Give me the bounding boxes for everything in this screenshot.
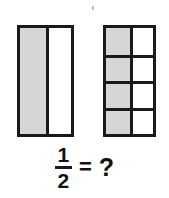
answer-placeholder: ? bbox=[99, 155, 114, 180]
fraction-cell-eighth-3 bbox=[106, 55, 130, 82]
fraction-cell-eighth-2 bbox=[130, 28, 154, 55]
fraction-numerator: 1 bbox=[58, 144, 70, 166]
fraction-cell-eighth-5 bbox=[106, 81, 130, 108]
fraction-cell-half-2 bbox=[46, 28, 72, 134]
fraction-cell-eighth-6 bbox=[130, 81, 154, 108]
fraction-cell-eighth-7 bbox=[106, 108, 130, 135]
equation-row: 1 2 = ? bbox=[0, 143, 169, 191]
fraction-cell-eighth-8 bbox=[130, 108, 154, 135]
fraction-one-half: 1 2 bbox=[55, 144, 72, 191]
fraction-cell-eighth-1 bbox=[106, 28, 130, 55]
eight-part-fraction-bar bbox=[103, 25, 156, 137]
scan-speck-artifact bbox=[92, 6, 94, 10]
equals-sign: = bbox=[79, 156, 92, 178]
fraction-cell-half-1 bbox=[20, 28, 46, 134]
fraction-cell-eighth-4 bbox=[130, 55, 154, 82]
two-part-fraction-bar bbox=[17, 25, 74, 137]
fraction-denominator: 2 bbox=[58, 169, 70, 191]
fraction-worksheet: 1 2 = ? bbox=[0, 0, 169, 198]
